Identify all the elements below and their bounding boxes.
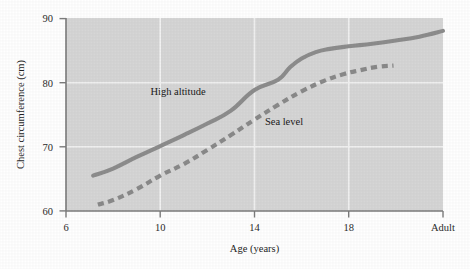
x-tick-label-10: 10 (155, 222, 166, 233)
series-label-sea-level: Sea level (265, 116, 303, 127)
line-chart: 90 80 70 60 6 10 14 18 Adult Age (years)… (0, 0, 470, 269)
x-tick-marks (66, 211, 443, 218)
y-tick-label-60: 60 (43, 206, 54, 217)
y-axis-title: Chest circumference (cm) (15, 59, 27, 169)
x-tick-label-adult: Adult (431, 222, 455, 233)
y-tick-marks (60, 19, 67, 211)
y-tick-label-70: 70 (43, 142, 54, 153)
x-tick-label-6: 6 (63, 222, 68, 233)
x-tick-labels: 6 10 14 18 Adult (63, 222, 455, 233)
y-tick-label-80: 80 (43, 78, 54, 89)
x-tick-label-18: 18 (343, 222, 354, 233)
series-label-high-altitude: High altitude (150, 86, 205, 97)
chart-figure: 90 80 70 60 6 10 14 18 Adult Age (years)… (0, 0, 470, 269)
x-tick-label-14: 14 (249, 222, 260, 233)
y-tick-label-90: 90 (43, 13, 54, 24)
y-tick-labels: 90 80 70 60 (43, 13, 54, 216)
x-axis-title: Age (years) (230, 243, 280, 255)
